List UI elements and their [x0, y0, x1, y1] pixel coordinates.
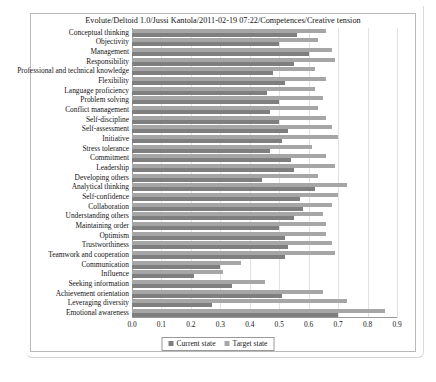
- bar-current-state: [132, 303, 212, 307]
- category-label: Language proficiency: [64, 87, 129, 95]
- x-axis-ticks: 0.00.10.20.30.40.50.60.70.80.9: [132, 320, 397, 332]
- bar-row: Responsibility: [132, 57, 397, 67]
- bar-current-state: [132, 284, 232, 288]
- bar-row: Influence: [132, 270, 397, 280]
- bar-row: Emotional awareness: [132, 308, 397, 318]
- category-label: Teamwork and cooperation: [48, 251, 129, 259]
- bar-row: Maintaining order: [132, 221, 397, 231]
- category-label: Commitment: [90, 154, 129, 162]
- bar-current-state: [132, 187, 315, 191]
- bar-row: Optimism: [132, 231, 397, 241]
- bar-current-state: [132, 129, 288, 133]
- category-label: Leveraging diversity: [68, 299, 129, 307]
- bar-row: Seeking information: [132, 279, 397, 289]
- x-tick-label: 0.4: [245, 320, 254, 329]
- bar-current-state: [132, 139, 282, 143]
- bar-current-state: [132, 120, 279, 124]
- bar-current-state: [132, 81, 285, 85]
- bar-current-state: [132, 226, 279, 230]
- category-label: Initiative: [102, 135, 129, 143]
- category-label: Stress tolerance: [82, 145, 129, 153]
- x-tick-label: 0.2: [186, 320, 195, 329]
- bar-current-state: [132, 294, 282, 298]
- bar-row: Teamwork and cooperation: [132, 250, 397, 260]
- bar-row: Problem solving: [132, 96, 397, 106]
- bar-row: Stress tolerance: [132, 144, 397, 154]
- category-label: Leadership: [96, 164, 129, 172]
- bar-row: Commitment: [132, 154, 397, 164]
- legend-item-current-state: Current state: [169, 339, 216, 348]
- bar-current-state: [132, 110, 270, 114]
- bar-row: Professional and technical knowledge: [132, 67, 397, 77]
- category-label: Self-confidence: [82, 193, 129, 201]
- bar-current-state: [132, 178, 262, 182]
- bar-current-state: [132, 245, 288, 249]
- bar-current-state: [132, 216, 294, 220]
- category-label: Conceptual thinking: [69, 29, 129, 37]
- bar-row: Conceptual thinking: [132, 28, 397, 38]
- legend-swatch-target-icon: [225, 341, 230, 346]
- category-label: Emotional awareness: [66, 309, 129, 317]
- bar-row: Communication: [132, 260, 397, 270]
- x-tick-label: 0.5: [275, 320, 284, 329]
- bar-row: Language proficiency: [132, 86, 397, 96]
- bar-current-state: [132, 62, 294, 66]
- bar-row: Self-discipline: [132, 115, 397, 125]
- category-label: Problem solving: [80, 96, 129, 104]
- bar-row: Self-assessment: [132, 125, 397, 135]
- category-label: Objectivity: [96, 38, 129, 46]
- bar-current-state: [132, 158, 291, 162]
- x-tick-label: 0.7: [333, 320, 342, 329]
- bar-row: Understanding others: [132, 212, 397, 222]
- category-label: Developing others: [75, 174, 129, 182]
- bar-row: Collaboration: [132, 202, 397, 212]
- bar-row: Leadership: [132, 163, 397, 173]
- x-tick-label: 0.6: [304, 320, 313, 329]
- category-label: Maintaining order: [75, 222, 129, 230]
- bar-current-state: [132, 71, 273, 75]
- category-label: Management: [90, 48, 129, 56]
- bar-row: Leveraging diversity: [132, 299, 397, 309]
- category-label: Professional and technical knowledge: [17, 67, 129, 75]
- category-label: Self-discipline: [86, 116, 129, 124]
- category-label: Self-assessment: [82, 125, 129, 133]
- legend-swatch-current-icon: [169, 341, 174, 346]
- category-label: Influence: [101, 270, 129, 278]
- category-label: Achievement orientation: [56, 290, 129, 298]
- chart-title: Evolute/Deltoid 1.0/Jussi Kantola/2011-0…: [30, 16, 416, 25]
- bar-row: Self-confidence: [132, 192, 397, 202]
- category-label: Responsibility: [86, 58, 129, 66]
- bar-row: Trustworthiness: [132, 241, 397, 251]
- bar-current-state: [132, 236, 285, 240]
- bar-row: Analytical thinking: [132, 183, 397, 193]
- legend-label-target-state: Target state: [233, 339, 268, 348]
- category-label: Flexibility: [98, 77, 129, 85]
- bar-row: Objectivity: [132, 38, 397, 48]
- bar-current-state: [132, 313, 338, 317]
- bar-current-state: [132, 168, 294, 172]
- category-label: Trustworthiness: [82, 241, 129, 249]
- bar-row: Conflict management: [132, 105, 397, 115]
- bar-current-state: [132, 42, 279, 46]
- bar-row: Developing others: [132, 173, 397, 183]
- legend-item-target-state: Target state: [225, 339, 268, 348]
- category-label: Understanding others: [66, 212, 129, 220]
- bar-current-state: [132, 33, 297, 37]
- category-label: Optimism: [99, 232, 129, 240]
- bar-current-state: [132, 52, 309, 56]
- category-label: Analytical thinking: [72, 183, 129, 191]
- x-tick-label: 0.1: [157, 320, 166, 329]
- category-label: Communication: [81, 261, 129, 269]
- bar-current-state: [132, 207, 303, 211]
- x-tick-label: 0.8: [363, 320, 372, 329]
- x-tick-label: 0.9: [392, 320, 401, 329]
- bar-current-state: [132, 274, 194, 278]
- bar-current-state: [132, 265, 220, 269]
- bar-row: Achievement orientation: [132, 289, 397, 299]
- plot-area: Conceptual thinkingObjectivityManagement…: [132, 28, 397, 318]
- bar-current-state: [132, 100, 279, 104]
- chart-legend: Current state Target state: [162, 337, 275, 351]
- legend-label-current-state: Current state: [177, 339, 216, 348]
- category-label: Collaboration: [88, 203, 129, 211]
- x-tick-label: 0.0: [127, 320, 136, 329]
